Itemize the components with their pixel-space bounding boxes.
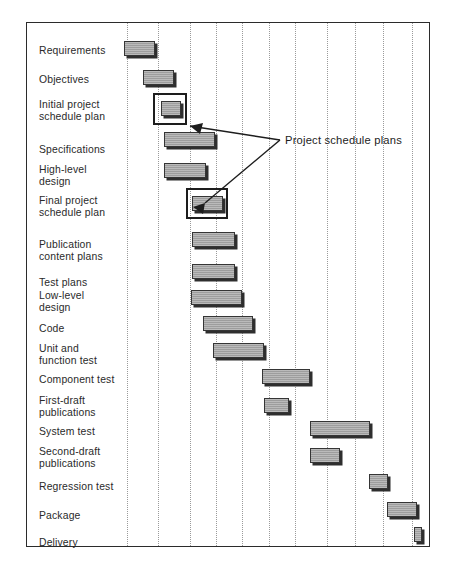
gantt-chart-figure: RequirementsObjectivesInitial project sc… xyxy=(0,0,454,585)
initial-plan-highlight xyxy=(153,93,187,125)
annotation-label-project-schedule-plans: Project schedule plans xyxy=(285,134,402,146)
gantt-bar xyxy=(369,474,388,489)
task-label: Delivery xyxy=(39,537,78,549)
gantt-bar xyxy=(192,264,235,279)
task-label: Specifications xyxy=(39,144,105,156)
task-label: Initial project schedule plan xyxy=(39,99,105,123)
gantt-bar xyxy=(213,343,264,358)
chart-plot-frame: RequirementsObjectivesInitial project sc… xyxy=(26,22,430,547)
task-rows: RequirementsObjectivesInitial project sc… xyxy=(27,23,429,546)
gantt-bar xyxy=(203,316,253,331)
gantt-bar xyxy=(191,290,242,305)
gantt-bar xyxy=(143,70,174,85)
task-label: Low-level design xyxy=(39,290,84,314)
task-label: Requirements xyxy=(39,45,105,57)
gantt-bar xyxy=(124,41,155,56)
gantt-bar xyxy=(310,448,340,463)
gantt-bar xyxy=(264,398,289,413)
gantt-bar xyxy=(414,527,422,542)
task-label: System test xyxy=(39,426,95,438)
task-label: Regression test xyxy=(39,481,113,493)
task-label: First-draft publications xyxy=(39,395,96,419)
task-label: Component test xyxy=(39,374,114,386)
final-plan-highlight xyxy=(186,188,228,219)
gantt-bar xyxy=(164,132,215,147)
gantt-bar xyxy=(310,421,370,436)
task-label: High-level design xyxy=(39,164,87,188)
gantt-bar xyxy=(192,232,235,247)
task-label: Objectives xyxy=(39,74,89,86)
task-label: Code xyxy=(39,323,64,335)
task-label: Unit and function test xyxy=(39,343,97,367)
task-label: Second-draft publications xyxy=(39,446,100,470)
gantt-bar xyxy=(387,502,417,517)
task-label: Publication content plans xyxy=(39,239,103,263)
gantt-bar xyxy=(262,369,310,384)
task-label: Package xyxy=(39,510,81,522)
task-label: Final project schedule plan xyxy=(39,195,105,219)
task-label: Test plans xyxy=(39,277,87,289)
gantt-bar xyxy=(164,163,206,178)
